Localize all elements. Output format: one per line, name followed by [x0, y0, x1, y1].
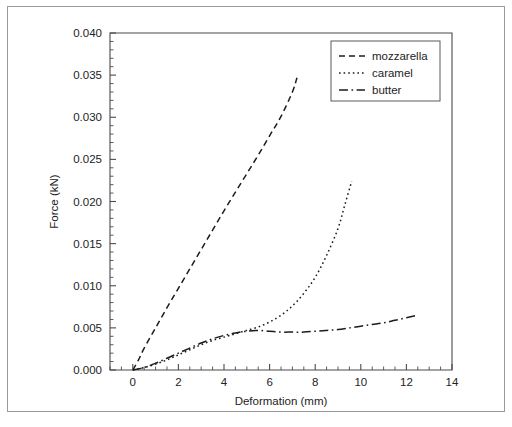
- series-line-butter: [133, 315, 418, 370]
- x-axis-title: Deformation (mm): [235, 395, 328, 407]
- series-line-caramel: [133, 181, 352, 370]
- x-tick-label: 14: [446, 376, 459, 388]
- y-axis-title: Force (kN): [48, 174, 60, 228]
- x-tick-label: 0: [130, 376, 136, 388]
- y-tick-label: 0.005: [73, 322, 102, 334]
- y-tick-label: 0.040: [73, 27, 102, 39]
- figure-page: 024681012140.0000.0050.0100.0150.0200.02…: [0, 0, 512, 427]
- y-tick-label: 0.025: [73, 153, 102, 165]
- x-tick-label: 6: [266, 376, 272, 388]
- y-tick-label: 0.010: [73, 280, 102, 292]
- force-deformation-chart: 024681012140.0000.0050.0100.0150.0200.02…: [0, 0, 512, 427]
- x-tick-label: 10: [354, 376, 367, 388]
- y-tick-label: 0.000: [73, 364, 102, 376]
- y-tick-label: 0.030: [73, 111, 102, 123]
- y-tick-label: 0.020: [73, 196, 102, 208]
- x-tick-label: 12: [400, 376, 413, 388]
- legend-label-mozzarella: mozzarella: [372, 50, 428, 62]
- y-tick-label: 0.035: [73, 69, 102, 81]
- x-tick-label: 4: [221, 376, 228, 388]
- x-tick-label: 2: [175, 376, 181, 388]
- x-tick-label: 8: [312, 376, 318, 388]
- series-line-mozzarella: [133, 78, 297, 370]
- legend-label-butter: butter: [372, 84, 402, 96]
- chart-legend: mozzarellacaramelbutter: [331, 41, 440, 101]
- chart-series: [133, 78, 418, 370]
- legend-label-caramel: caramel: [372, 67, 413, 79]
- y-tick-label: 0.015: [73, 238, 102, 250]
